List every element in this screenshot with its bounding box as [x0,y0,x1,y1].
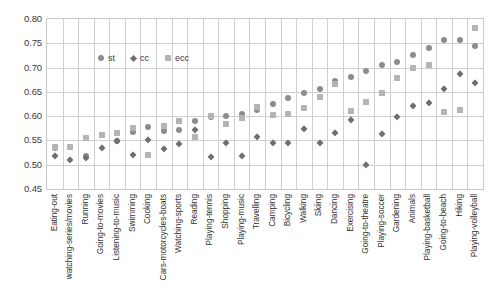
data-point-ecc [457,107,463,113]
data-point-st [379,62,385,68]
data-point-ecc [285,111,291,117]
x-axis-tick-label: Camping [268,194,276,227]
data-point-st [457,37,463,43]
y-axis-tick-label: 0.80 [0,13,42,24]
data-point-ecc [270,112,276,118]
data-point-cc [425,99,432,106]
x-axis-tick-label: Shopping [221,194,229,229]
data-point-ecc [379,90,385,96]
y-axis-tick-label: 0.65 [0,85,42,96]
x-axis-tick-label: Travelling [252,194,260,229]
data-point-cc [160,145,167,152]
gridline-vertical [203,19,204,189]
data-point-st [472,43,478,49]
chart-legend: st cc ecc [98,53,189,63]
x-axis-tick-label: Cars-motorcycles-boats [159,194,167,281]
data-point-cc [300,125,307,132]
data-point-st [441,37,447,43]
data-point-cc [238,153,245,160]
data-point-cc [191,127,198,134]
data-point-ecc [410,65,416,71]
gridline-vertical [78,19,79,189]
x-axis-tick-label: Hiking [455,194,463,217]
x-axis-tick-label: Playing-tennis [205,194,213,245]
gridline-vertical [140,19,141,189]
x-axis-tick-label: Walking [299,194,307,223]
data-point-st [223,113,229,119]
x-axis-tick-label: Gardening [392,194,400,232]
data-point-ecc [208,113,214,119]
data-point-ecc [301,105,307,111]
y-axis-tick-label: 0.60 [0,110,42,121]
gridline-vertical [405,19,406,189]
data-point-ecc [317,94,323,100]
x-axis-tick-label: watching-series/movies [65,194,73,279]
data-point-ecc [394,75,400,81]
data-point-ecc [83,135,89,141]
y-axis-tick-label: 0.45 [0,183,42,194]
data-point-cc [363,161,370,168]
data-point-ecc [161,123,167,129]
x-axis-tick-label: Listening-to-music [112,194,120,260]
data-point-ecc [114,130,120,136]
legend-label-ecc: ecc [175,53,189,63]
x-axis-tick-label: Playing-volleyball [470,194,478,257]
gridline-vertical [249,19,250,189]
x-axis-tick-label: Skiing [314,194,322,216]
data-point-cc [472,79,479,86]
data-point-ecc [99,132,105,138]
data-point-ecc [192,134,198,140]
gridline-vertical [63,19,64,189]
data-point-cc [394,113,401,120]
legend-item-st: st [98,53,115,63]
gridline-vertical [125,19,126,189]
data-point-ecc [130,125,136,131]
x-axis-tick-label: Playing-music [237,194,245,245]
data-point-st [348,74,354,80]
square-marker-icon [165,55,171,61]
scatter-chart: 0.800.750.700.650.600.550.500.45 st cc e… [0,0,492,308]
data-point-cc [51,152,58,159]
data-point-st [285,95,291,101]
data-point-ecc [348,108,354,114]
gridline-vertical [281,19,282,189]
data-point-cc [331,129,338,136]
x-axis-tick-label: Going-to-beach [439,194,447,251]
data-point-cc [207,154,214,161]
gridline-vertical [436,19,437,189]
data-point-ecc [426,62,432,68]
data-point-cc [378,130,385,137]
gridline-vertical [327,19,328,189]
x-axis-tick-label: Reading [190,194,198,225]
x-axis-tick-label: Exercising [346,194,354,232]
y-axis-tick-label: 0.70 [0,61,42,72]
data-point-ecc [254,104,260,110]
gridline-vertical [156,19,157,189]
data-point-cc [409,103,416,110]
y-axis-tick-label: 0.50 [0,158,42,169]
x-axis-tick-label: Watching-sports [174,194,182,253]
x-axis-tick-label: Swimming [128,194,136,232]
data-point-cc [67,157,74,164]
data-point-ecc [52,144,58,150]
data-point-st [426,45,432,51]
x-axis-tick-label: Playing-soccer [377,194,385,248]
diamond-marker-icon [130,54,137,61]
data-point-cc [347,116,354,123]
data-point-st [192,118,198,124]
gridline-vertical [312,19,313,189]
data-point-st [410,52,416,58]
x-axis-tick-label: Bicycling [283,194,291,226]
y-axis-tick-label: 0.75 [0,37,42,48]
data-point-ecc [67,144,73,150]
legend-item-cc: cc [131,53,149,63]
gridline-vertical [358,19,359,189]
x-axis-tick-label: Dancing [330,194,338,224]
data-point-cc [145,136,152,143]
x-axis-tick-label: Cooking [143,194,151,224]
x-axis-tick-label: Eating-out [50,194,58,231]
x-axis-tick-label: Going-to-theatre [361,194,369,254]
circle-marker-icon [98,55,104,61]
gridline-vertical [187,19,188,189]
data-point-st [145,124,151,130]
